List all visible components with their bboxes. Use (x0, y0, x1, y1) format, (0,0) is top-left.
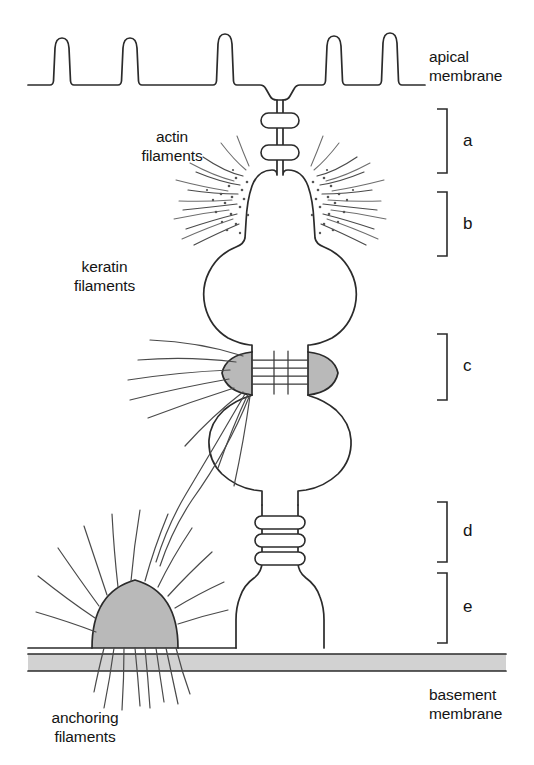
apical-membrane-label: apicalmembrane (429, 48, 502, 86)
actin-filaments-label: actinfilaments (112, 128, 232, 166)
apical-membrane-label-line1: apical (429, 48, 469, 65)
desmosome-cross-links (252, 351, 308, 394)
desmosome-plaque-left (222, 352, 252, 395)
hemidesmosome-group (28, 580, 236, 648)
anchoring-filaments-label-line1: anchoring (51, 709, 118, 726)
gap-junction-connexon-2 (255, 534, 305, 547)
apical-membrane-line (28, 33, 425, 100)
anchoring-filaments-label: anchoringfilaments (20, 709, 150, 747)
basement-membrane-label-line1: basement (429, 686, 496, 703)
bracket-group-e (437, 573, 447, 643)
actin-filaments-label-line1: actin (156, 128, 188, 145)
bracket-letter-e: e (463, 597, 472, 617)
anchoring-filaments-label-line2: filaments (54, 728, 115, 745)
bracket-letter-b: b (463, 214, 472, 234)
gap-junction-connexon-1 (255, 516, 305, 529)
apical-membrane-group (28, 33, 425, 100)
actin-filaments-label-line2: filaments (141, 147, 202, 164)
bracket-c (437, 334, 447, 400)
bracket-letter-c: c (463, 356, 472, 376)
bracket-group-b (437, 192, 447, 256)
desmosome-plaque-right (308, 352, 338, 395)
gap-junction-group (255, 516, 305, 565)
bracket-e (437, 573, 447, 643)
bracket-group-c (437, 334, 447, 400)
bracket-d (437, 502, 447, 562)
basement-membrane-label: basementmembrane (429, 686, 502, 724)
apical-membrane-label-line2: membrane (429, 67, 502, 84)
bracket-a (437, 109, 447, 173)
keratin-filaments-label-line2: filaments (74, 277, 135, 294)
bracket-b (437, 192, 447, 256)
right-lateral-membrane-lower (298, 395, 351, 505)
bracket-letter-a: a (463, 131, 472, 151)
keratin-filaments-label: keratinfilaments (42, 258, 167, 296)
basement-membrane-label-line2: membrane (429, 705, 502, 722)
basement-membrane-group (28, 654, 506, 671)
bracket-letter-d: d (463, 521, 472, 541)
keratin-filaments-label-line1: keratin (82, 258, 128, 275)
tight-junction-group (261, 113, 299, 160)
figure-root: apicalmembrane actinfilaments keratinfil… (0, 0, 534, 765)
bracket-group-a (437, 109, 447, 173)
basement-membrane-band (28, 654, 506, 671)
gap-junction-connexon-3 (255, 552, 305, 565)
tight-junction-kiss-point-1 (261, 113, 299, 128)
desmosome-group (222, 351, 338, 395)
tight-junction-kiss-point-2 (261, 145, 299, 160)
cell-junction-diagram (0, 0, 534, 765)
bracket-group-d (437, 502, 447, 562)
